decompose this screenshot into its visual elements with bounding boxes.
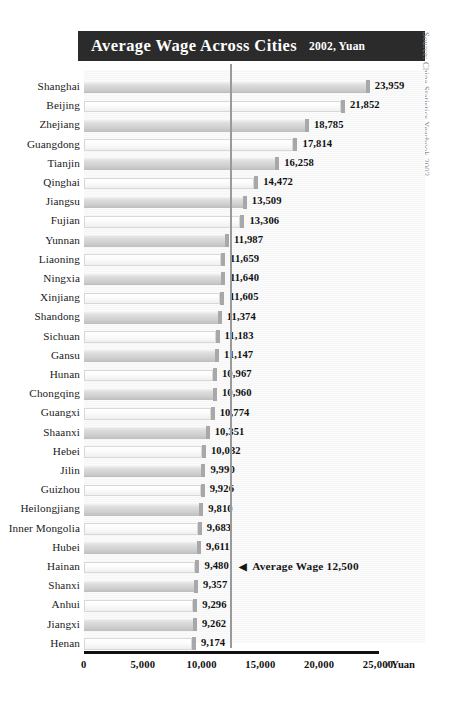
table-row: Yunnan11,987 xyxy=(0,232,465,251)
bar-category-label: Qinghai xyxy=(0,176,80,188)
bar-segment xyxy=(84,197,243,209)
x-axis-tick-label: 5,000 xyxy=(130,659,155,670)
bar-end-marker xyxy=(293,138,297,151)
bar-end-marker xyxy=(275,157,279,170)
bar-value-label: 9,174 xyxy=(201,637,225,648)
bar-end-marker xyxy=(366,80,370,93)
x-axis-unit-label: / Yuan xyxy=(386,659,415,670)
table-row: Chongqing10,960 xyxy=(0,385,465,404)
bar-end-marker xyxy=(218,311,222,324)
table-row: Fujian13,306 xyxy=(0,212,465,231)
bar-value-label: 10,774 xyxy=(220,407,250,418)
bar-end-marker xyxy=(341,100,345,113)
bar-value-label: 9,810 xyxy=(208,503,232,514)
bar-category-label: Hubei xyxy=(0,541,80,553)
x-axis-tick-label: 20,000 xyxy=(304,659,334,670)
bar-segment xyxy=(84,504,199,516)
table-row: Hubei9,611 xyxy=(0,539,465,558)
bar-value-label: 9,611 xyxy=(206,541,230,552)
bar-category-label: Shaanxi xyxy=(0,426,80,438)
bar-segment xyxy=(84,274,221,286)
bar-segment xyxy=(84,485,201,497)
bar-category-label: Hainan xyxy=(0,560,80,572)
bar-category-label: Xinjiang xyxy=(0,291,80,303)
bar-category-label: Jiangsu xyxy=(0,195,80,207)
bar-segment xyxy=(84,446,202,458)
table-row: Qinghai14,472 xyxy=(0,174,465,193)
bar-category-label: Inner Mongolia xyxy=(0,522,80,534)
bar-end-marker xyxy=(216,330,220,343)
bar-end-marker xyxy=(194,580,198,593)
table-row: Heilongjiang9,810 xyxy=(0,500,465,519)
bar-end-marker xyxy=(213,368,217,381)
table-row: Beijing21,852 xyxy=(0,97,465,116)
bar-category-label: Guangxi xyxy=(0,406,80,418)
bar-segment xyxy=(84,312,218,324)
bar-category-label: Shanghai xyxy=(0,80,80,92)
bar-category-label: Yunnan xyxy=(0,234,80,246)
bar-segment xyxy=(84,389,213,401)
table-row: Guizhou9,926 xyxy=(0,481,465,500)
table-row: Ningxia11,640 xyxy=(0,270,465,289)
table-row: Shanghai23,959 xyxy=(0,78,465,97)
bar-value-label: 14,472 xyxy=(263,176,293,187)
bar-segment xyxy=(84,523,198,535)
chart-page: Average Wage Across Cities 2002, Yuan So… xyxy=(0,0,465,703)
bar-value-label: 11,987 xyxy=(234,234,263,245)
bar-segment xyxy=(84,600,193,612)
bar-segment xyxy=(84,370,213,382)
bar-end-marker xyxy=(211,407,215,420)
bar-category-label: Shanxi xyxy=(0,579,80,591)
bar-category-label: Henan xyxy=(0,637,80,649)
average-annotation: ◀Average Wage 12,500 xyxy=(239,560,359,572)
bar-category-label: Sichuan xyxy=(0,330,80,342)
bar-end-marker xyxy=(192,637,196,650)
bar-segment xyxy=(84,427,206,439)
bar-value-label: 9,683 xyxy=(207,522,231,533)
table-row: Anhui9,296 xyxy=(0,596,465,615)
bar-value-label: 11,605 xyxy=(229,291,258,302)
bar-value-label: 11,640 xyxy=(230,272,259,283)
bar-value-label: 18,785 xyxy=(314,119,344,130)
bar-category-label: Beijing xyxy=(0,99,80,111)
bar-segment xyxy=(84,120,305,132)
bar-value-label: 11,659 xyxy=(230,253,259,264)
bar-segment xyxy=(84,82,366,94)
table-row: Guangdong17,814 xyxy=(0,136,465,155)
bar-value-label: 11,183 xyxy=(225,330,254,341)
bar-segment xyxy=(84,408,211,420)
bar-end-marker xyxy=(243,196,247,209)
table-row: Inner Mongolia9,683 xyxy=(0,520,465,539)
bar-segment xyxy=(84,542,197,554)
average-reference-line xyxy=(230,64,231,648)
bar-category-label: Anhui xyxy=(0,598,80,610)
bar-end-marker xyxy=(193,599,197,612)
bar-end-marker xyxy=(305,119,309,132)
bar-value-label: 17,814 xyxy=(302,138,332,149)
bar-value-label: 11,147 xyxy=(224,349,253,360)
table-row: Jilin9,990 xyxy=(0,462,465,481)
bar-segment xyxy=(84,139,293,151)
bar-end-marker xyxy=(197,541,201,554)
table-row: Jiangxi9,262 xyxy=(0,616,465,635)
bar-category-label: Chongqing xyxy=(0,387,80,399)
bar-segment xyxy=(84,178,254,190)
table-row: Shanxi9,357 xyxy=(0,577,465,596)
bar-end-marker xyxy=(254,176,258,189)
bar-value-label: 9,262 xyxy=(202,618,226,629)
bar-segment xyxy=(84,619,193,631)
table-row: Gansu11,147 xyxy=(0,347,465,366)
page-title: Average Wage Across Cities xyxy=(91,36,297,56)
bar-value-label: 9,357 xyxy=(203,579,227,590)
table-row: Shaanxi10,351 xyxy=(0,424,465,443)
bar-category-label: Hunan xyxy=(0,368,80,380)
table-row: Guangxi10,774 xyxy=(0,404,465,423)
bar-end-marker xyxy=(221,272,225,285)
bar-category-label: Guangdong xyxy=(0,138,80,150)
bar-value-label: 16,258 xyxy=(284,157,314,168)
bar-segment xyxy=(84,216,240,228)
bar-value-label: 9,296 xyxy=(202,599,226,610)
bar-end-marker xyxy=(195,560,199,573)
bar-category-label: Gansu xyxy=(0,349,80,361)
title-subtitle: 2002, Yuan xyxy=(309,40,365,52)
